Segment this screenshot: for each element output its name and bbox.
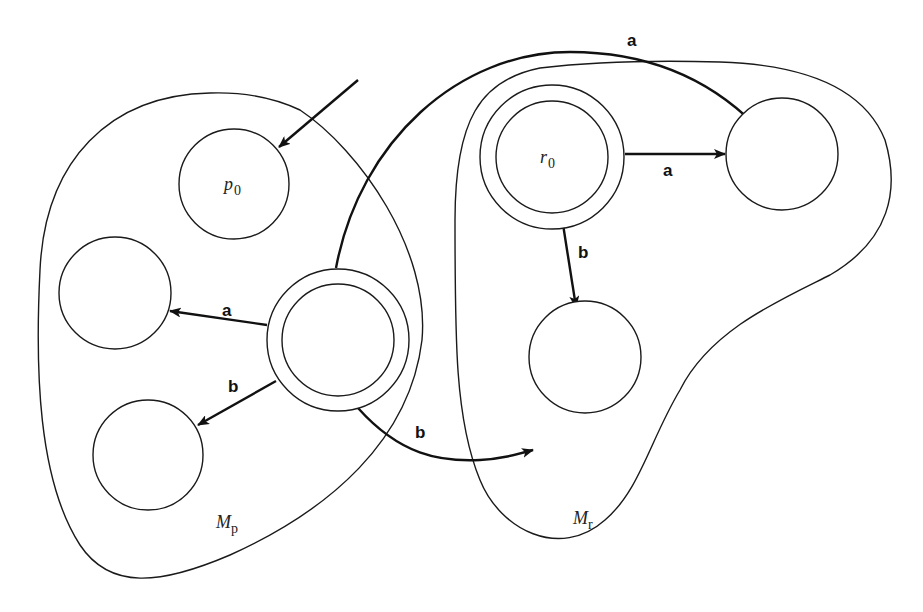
edge-pfinal-pleft-a <box>170 311 267 325</box>
state-r-right <box>726 98 838 210</box>
state-p-bottom <box>93 400 203 510</box>
edge-label-a-left: a <box>222 301 232 320</box>
state-p0: p0 <box>179 129 289 239</box>
start-arrow <box>279 80 358 147</box>
edge-label-a-top: a <box>627 31 637 50</box>
state-r-bottom <box>529 301 641 413</box>
region-mp-label: Mp <box>215 512 238 536</box>
state-p-left <box>59 237 171 349</box>
edge-label-b-cross: b <box>415 423 425 442</box>
edge-label-a-right: a <box>663 161 673 180</box>
state-p-final-accepting <box>267 269 409 411</box>
automaton-diagram: p0 r0 a b a b a b Mp Mr <box>0 0 923 612</box>
region-mr-label: Mr <box>572 508 593 532</box>
diagram-canvas: p0 r0 a b a b a b Mp Mr <box>0 0 923 612</box>
edge-label-b-left: b <box>228 377 238 396</box>
edge-pfinal-rbottom-b <box>358 408 533 460</box>
edge-label-b-down: b <box>578 243 588 262</box>
state-r0-accepting: r0 <box>480 85 624 229</box>
edge-r0-rbottom-b <box>562 218 576 307</box>
